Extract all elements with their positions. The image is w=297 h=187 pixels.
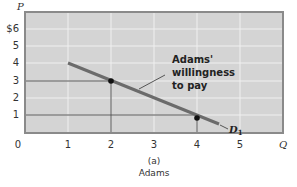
svg-text:1: 1: [65, 139, 71, 150]
svg-text:5: 5: [13, 40, 19, 51]
point-q2-p3: [108, 78, 114, 84]
x-axis-label: Q: [279, 139, 287, 150]
svg-text:3: 3: [151, 139, 157, 150]
y-tick-labels: $6 5 4 3 2 1: [6, 23, 19, 120]
svg-text:2: 2: [108, 139, 114, 150]
svg-text:3: 3: [13, 75, 19, 86]
svg-text:2: 2: [13, 92, 19, 103]
x-tick-labels: 0 1 2 3 4 5: [15, 139, 243, 150]
panel-letter: (a): [148, 156, 161, 166]
point-q4-p1: [194, 115, 200, 121]
demand-chart: Adams' willingness to pay D1 P $6 5 4 3 …: [0, 0, 297, 187]
svg-text:4: 4: [194, 139, 200, 150]
svg-text:0: 0: [15, 139, 21, 150]
annotation-line-2: willingness: [172, 67, 235, 78]
y-axis-label: P: [16, 1, 24, 12]
svg-text:$6: $6: [6, 23, 19, 34]
panel-caption: Adams: [139, 168, 170, 178]
svg-text:5: 5: [237, 139, 243, 150]
svg-text:4: 4: [13, 57, 19, 68]
annotation-line-3: to pay: [172, 80, 208, 91]
annotation-line-1: Adams': [172, 54, 213, 65]
svg-text:1: 1: [13, 109, 19, 120]
